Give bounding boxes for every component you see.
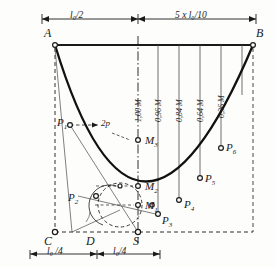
node-c — [52, 229, 57, 234]
label-point-p3: P3 — [162, 215, 172, 229]
ordinate-label-4: 0,64 M — [197, 99, 205, 122]
label-point-c: C — [44, 235, 52, 247]
p1-letter: P — [57, 116, 64, 128]
label-point-a: A — [44, 27, 51, 39]
dim-label-top-right: 5 x l₀/10 — [175, 11, 207, 21]
node-m2 — [136, 184, 141, 189]
node-m3 — [136, 138, 141, 143]
node-a — [53, 43, 58, 48]
dimension-line-bottom-left — [30, 250, 97, 259]
p5-sub: 5 — [212, 179, 216, 187]
p5-letter: P — [205, 172, 212, 184]
ordinate-label-5: 0,36 M — [218, 95, 226, 118]
label-point-p5: P5 — [205, 173, 215, 187]
label-point-p1: P1 — [57, 117, 67, 131]
node-p6 — [219, 146, 224, 151]
angle-arc-d — [86, 212, 90, 222]
node-p4 — [177, 198, 182, 203]
p2-sub: 2 — [75, 198, 79, 206]
label-point-m3: M3 — [145, 135, 158, 149]
p4-letter: P — [184, 198, 191, 210]
label-point-b: B — [256, 27, 263, 39]
label-point-p2: P2 — [68, 192, 78, 206]
node-b — [251, 43, 256, 48]
p3-letter: P — [162, 214, 169, 226]
node-p1 — [68, 123, 73, 128]
ordinate-verticals — [158, 45, 242, 214]
dimension-line-top-left — [42, 14, 138, 24]
node-m1 — [136, 203, 141, 208]
node-circle-top — [118, 184, 122, 188]
dim-label-top-left: l₀/2 — [70, 11, 83, 21]
label-point-m1: M1 — [145, 200, 158, 214]
label-point-p6: P6 — [226, 142, 236, 156]
dimension-line-bottom-right — [97, 250, 160, 259]
ordinate-label-1: 1,00 M — [135, 99, 143, 122]
p2-letter: P — [68, 191, 75, 203]
diagram-canvas: l₀/2 5 x l₀/10 l₀ /4 l₀/4 A B C D S P1 P… — [0, 0, 276, 267]
dim-label-bottom-left: l₀ /4 — [47, 247, 63, 257]
p6-letter: P — [226, 141, 233, 153]
ordinate-label-3: 0,84 M — [176, 99, 184, 122]
label-point-p4: P4 — [184, 199, 194, 213]
label-point-d: D — [86, 235, 95, 247]
m2-sub: 2 — [154, 187, 158, 195]
ordinate-label-2: 0,96 M — [155, 99, 163, 122]
m3-leader — [112, 133, 130, 140]
m3-letter: M — [145, 134, 154, 146]
node-p5 — [198, 176, 203, 181]
label-point-m2: M2 — [145, 181, 158, 195]
label-point-s: S — [133, 235, 139, 247]
m3-sub: 3 — [154, 141, 158, 149]
p1-sub: 1 — [64, 123, 68, 131]
dim-label-bottom-right: l₀/4 — [113, 247, 126, 257]
annotation-two-p: 2p — [101, 119, 110, 128]
p3-sub: 3 — [169, 221, 173, 229]
m2-letter: M — [145, 180, 154, 192]
diagram-vector-layer — [0, 0, 276, 267]
m1-sub: 1 — [154, 206, 158, 214]
p6-sub: 6 — [233, 148, 237, 156]
m1-letter: M — [145, 199, 154, 211]
node-p2 — [94, 194, 99, 199]
p4-sub: 4 — [191, 205, 195, 213]
